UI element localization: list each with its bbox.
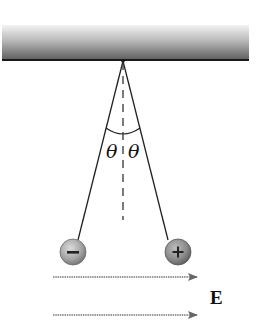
pendulum-field-diagram: θ θ E	[0, 0, 258, 334]
electric-field-label: E	[210, 287, 223, 308]
theta-right-label: θ	[128, 140, 140, 162]
minus-sign-icon	[67, 251, 79, 254]
theta-left-label: θ	[106, 140, 118, 162]
ceiling-support	[2, 25, 249, 60]
negative-charge-sphere	[60, 239, 86, 265]
positive-charge-sphere	[165, 239, 191, 265]
